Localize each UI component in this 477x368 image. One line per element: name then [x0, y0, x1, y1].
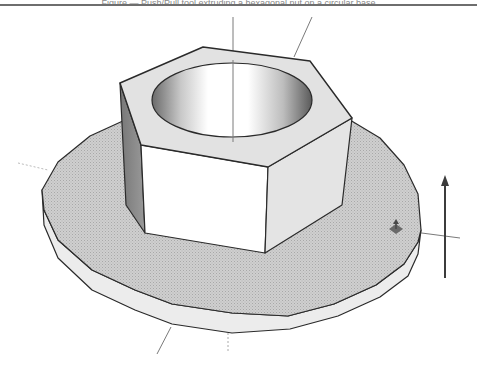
up-arrow-icon: [441, 175, 449, 278]
nut-bore: [152, 63, 312, 137]
modeling-viewport[interactable]: [0, 6, 477, 368]
